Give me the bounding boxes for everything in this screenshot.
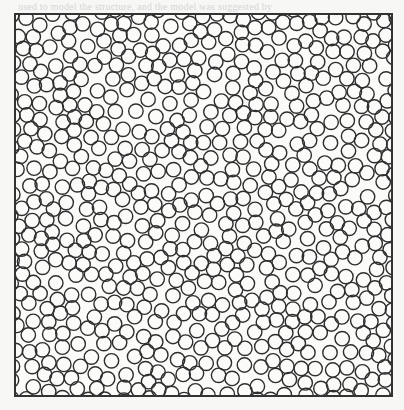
disk	[4, 391, 18, 405]
disk	[388, 393, 402, 407]
disk-packing-figure	[0, 0, 404, 410]
